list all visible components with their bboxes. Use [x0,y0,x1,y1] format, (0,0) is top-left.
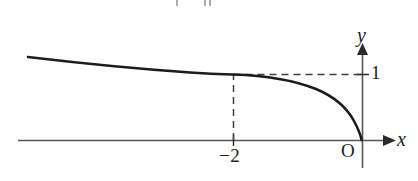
graph-figure: y x 1 −2 O [0,0,418,181]
y-axis-label: y [357,25,366,45]
y-tick-label-one: 1 [371,63,381,82]
x-axis-label: x [397,129,406,149]
x-tick-label-negative-two: −2 [219,146,240,165]
x-axis-arrow-icon [383,135,396,146]
origin-label: O [341,141,355,160]
curve-logarithmic [28,57,362,140]
graph-canvas [0,0,418,181]
